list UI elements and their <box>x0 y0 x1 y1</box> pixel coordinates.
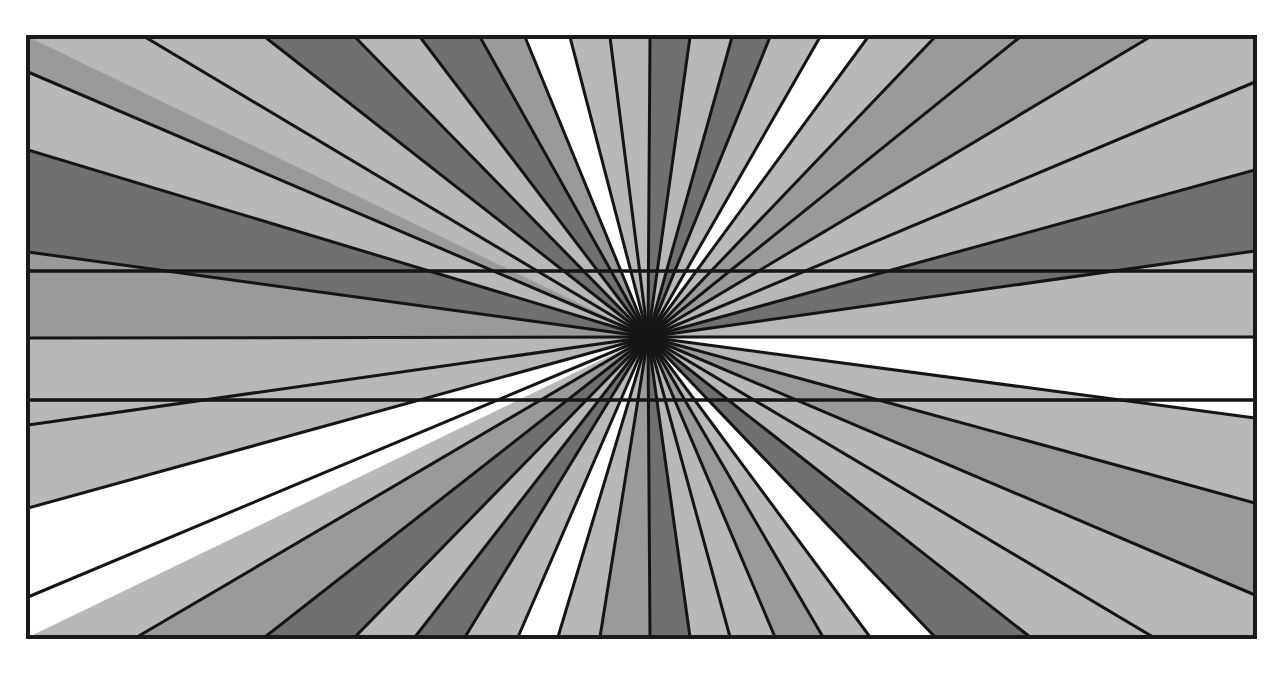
ray-line <box>648 337 650 637</box>
ray-line <box>28 337 648 338</box>
illusion-figure: Hering illusion: radial wedges with two … <box>0 0 1285 673</box>
ray-line <box>648 37 650 337</box>
figure-canvas <box>0 0 1285 673</box>
